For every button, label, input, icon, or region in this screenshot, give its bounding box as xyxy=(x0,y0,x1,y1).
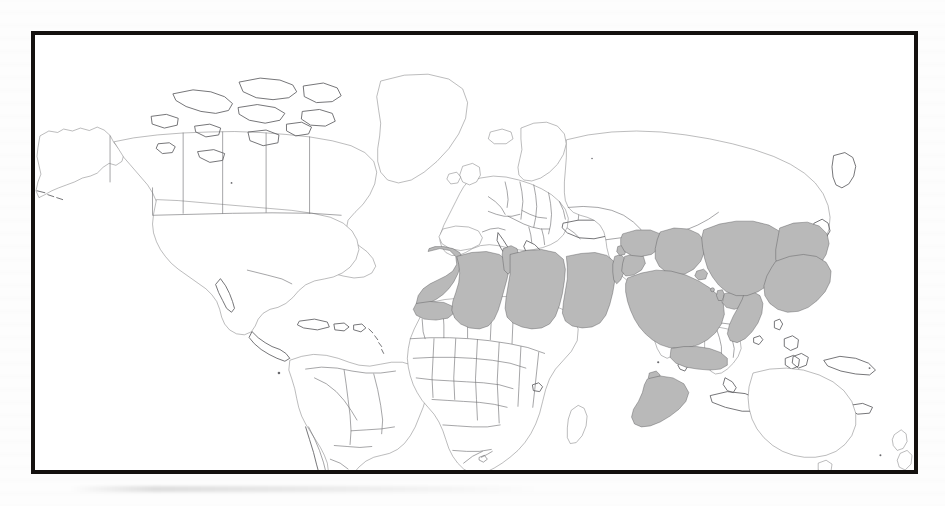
map-figure xyxy=(0,0,945,506)
map-frame-border xyxy=(31,31,918,474)
scan-smudge-artifact xyxy=(70,486,540,492)
world-map-svg xyxy=(35,35,914,470)
